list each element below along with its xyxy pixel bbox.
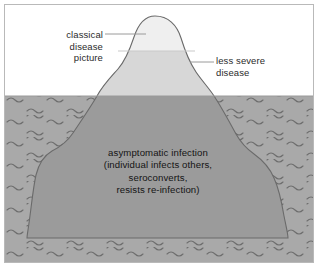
label-asymptomatic-infection: asymptomatic infection (individual infec… xyxy=(63,147,253,197)
label-less-severe-disease: less severe disease xyxy=(216,55,308,78)
label-classical-disease-picture: classical disease picture xyxy=(33,29,103,64)
figure-frame: classical disease picture less severe di… xyxy=(4,4,314,263)
iceberg-figure: classical disease picture less severe di… xyxy=(0,0,318,267)
